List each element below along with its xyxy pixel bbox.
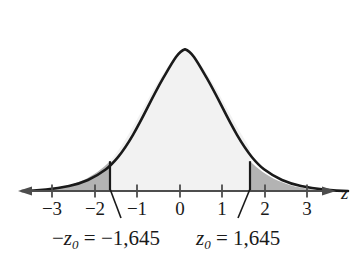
tick-label-2: 2 bbox=[245, 199, 285, 218]
critical-value-label-right: z0 = 1,645 bbox=[196, 228, 280, 251]
axis-arrow-left-icon bbox=[18, 186, 32, 195]
tick-label-minus-2: −2 bbox=[75, 199, 115, 218]
critical-left-value: −1,645 bbox=[101, 226, 160, 250]
normal-distribution-figure: −3 −2 −1 0 1 2 3 z −z0 = −1,645 z0 = 1,6… bbox=[0, 0, 356, 266]
tick-label-0: 0 bbox=[160, 199, 200, 218]
tick-label-3: 3 bbox=[287, 199, 327, 218]
critical-left-variable: z bbox=[64, 226, 72, 250]
critical-left-prefix: − bbox=[52, 226, 64, 250]
critical-left-equals: = bbox=[79, 226, 101, 250]
critical-value-label-left: −z0 = −1,645 bbox=[52, 228, 160, 251]
tick-label-minus-3: −3 bbox=[32, 199, 72, 218]
axis-variable-label: z bbox=[341, 183, 348, 202]
critical-right-value: 1,645 bbox=[233, 226, 280, 250]
right-tail-fill bbox=[250, 161, 336, 191]
tick-label-minus-1: −1 bbox=[117, 199, 157, 218]
axis-arrow-right-icon bbox=[322, 186, 336, 195]
critical-right-variable: z bbox=[196, 226, 204, 250]
tick-label-1: 1 bbox=[202, 199, 242, 218]
critical-right-equals: = bbox=[211, 226, 233, 250]
